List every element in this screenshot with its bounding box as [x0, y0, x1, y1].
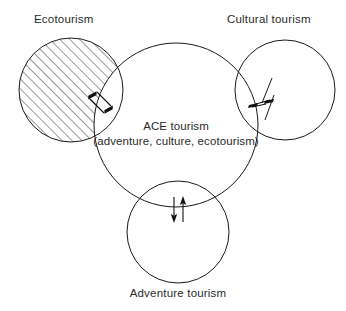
arrow-to-adventure: [171, 197, 177, 223]
adventure-exchange-arrows: [171, 196, 186, 223]
adventure-tourism-circle: [127, 181, 229, 283]
boundary-tick-lower: [265, 95, 274, 120]
ace-tourism-title: ACE tourism: [143, 120, 209, 132]
adventure-tourism-label: Adventure tourism: [130, 287, 227, 299]
boundary-tick-upper: [262, 78, 272, 103]
venn-diagram-canvas: Ecotourism Cultural tourism Adventure to…: [0, 0, 346, 311]
cultural-tourism-label: Cultural tourism: [227, 13, 311, 25]
arrow-to-ace-from-adventure: [180, 196, 186, 222]
venn-diagram-container: Ecotourism Cultural tourism Adventure to…: [0, 0, 346, 311]
ace-tourism-subtitle: (adventure, culture, ecotourism): [93, 135, 259, 147]
cultural-exchange-arrows: [248, 78, 274, 120]
ecotourism-label: Ecotourism: [34, 13, 94, 25]
